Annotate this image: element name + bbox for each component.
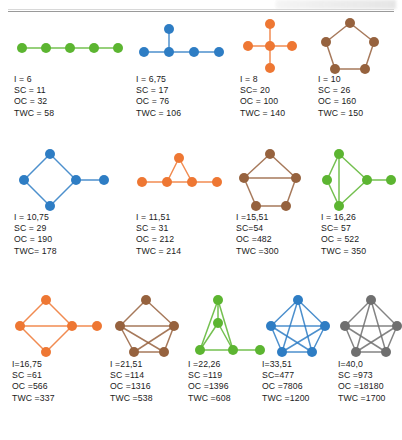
triangle-stack-path-graph: [188, 295, 268, 358]
graph-edge: [24, 180, 50, 206]
metric-twc: TWC =337: [12, 393, 55, 404]
graph-diagram: [12, 295, 112, 360]
metric-oc: OC = 32: [14, 96, 54, 107]
graph-node: [266, 321, 276, 331]
graph-edge: [50, 154, 76, 180]
graph-node: [139, 47, 149, 57]
graph-node: [362, 175, 372, 185]
graph-cell: I=16,75SC =61OC =566TWC =337: [12, 295, 112, 360]
graph-nodes: [239, 149, 301, 211]
metric-i: I = 10,75: [14, 212, 57, 223]
metrics-block: I = 6SC = 11OC = 32TWC = 58: [14, 74, 54, 119]
graph-diagram: [236, 148, 321, 214]
metrics-block: I =22,26SC =119OC =1396TWC =608: [188, 359, 231, 404]
graph-node: [351, 347, 361, 357]
graph-node: [45, 149, 55, 159]
graph-node: [322, 175, 332, 185]
metric-i: I = 6,75: [136, 74, 181, 85]
graph-node: [169, 321, 179, 331]
metric-i: I = 8: [240, 74, 285, 85]
metric-sc: SC=54: [236, 223, 279, 234]
diamond-chord-pendant-graph: [321, 148, 399, 214]
graph-edge: [24, 154, 50, 180]
graph-node: [189, 47, 199, 57]
metric-twc: TWC = 350: [321, 246, 366, 257]
graph-node: [164, 47, 174, 57]
graph-nodes: [195, 295, 265, 355]
metric-i: I = 10: [318, 74, 363, 85]
metric-twc: TWC = 150: [318, 108, 363, 119]
metric-i: I=33,51: [262, 359, 310, 370]
star-graph-5: [240, 18, 300, 76]
graph-node: [381, 347, 391, 357]
graph-node: [141, 295, 151, 305]
metrics-block: I=40,0SC =973OC =18180TWC =1700: [338, 359, 386, 404]
metric-twc: TWC =1700: [338, 393, 386, 404]
graph-edges: [120, 300, 174, 352]
metric-i: I = 16,26: [321, 212, 366, 223]
metric-i: I =22,26: [188, 359, 231, 370]
graph-node: [293, 295, 303, 305]
graph-cell: I = 10,75SC = 29OC = 190TWC= 178: [14, 148, 134, 214]
tree-graph-5: [136, 18, 227, 60]
graph-node: [320, 321, 330, 331]
graph-node: [99, 175, 109, 185]
graph-diagram: [136, 148, 236, 190]
graph-edge: [120, 300, 146, 326]
graph-node: [164, 24, 174, 34]
graph-diagram: [136, 18, 236, 60]
graph-diagram: [321, 148, 401, 214]
graph-edges: [327, 154, 391, 206]
graph-edges: [345, 300, 397, 352]
graph-edge: [46, 300, 72, 326]
graph-node: [195, 345, 205, 355]
metric-oc: OC =1396: [188, 381, 231, 392]
graph-node: [265, 19, 275, 29]
metric-oc: OC =7806: [262, 381, 310, 392]
metrics-block: I=33,51SC=477OC =7806TWC =1200: [262, 359, 310, 404]
graph-cell: I = 16,26SC= 57OC = 522TWC = 350: [321, 148, 401, 214]
metrics-block: I =21,51SC =114OC =1316TWC =538: [110, 359, 153, 404]
graph-node: [340, 321, 350, 331]
metric-oc: OC = 160: [318, 96, 363, 107]
path-graph-5: [14, 18, 126, 56]
graph-node: [214, 47, 224, 57]
metric-i: I=40,0: [338, 359, 386, 370]
scan-artifact: [276, 0, 396, 9]
top-rule: [8, 11, 394, 12]
graph-edges: [20, 300, 97, 352]
graph-cell: I =15,51SC=54OC =482TWC =300: [236, 148, 321, 214]
diamond-chord-pendant-graph-orange: [12, 295, 105, 360]
metric-twc: TWC = 58: [14, 108, 54, 119]
metric-sc: SC =119: [188, 370, 231, 381]
graph-node: [213, 295, 223, 305]
graph-nodes: [321, 18, 379, 74]
graph-edge: [270, 154, 296, 178]
metrics-block: I = 10,75SC = 29OC = 190TWC= 178: [14, 212, 57, 257]
graph-node: [243, 41, 253, 51]
metric-oc: OC = 76: [136, 96, 181, 107]
metric-sc: SC = 11: [14, 85, 54, 96]
metric-sc: SC= 20: [240, 85, 285, 96]
graph-edge: [20, 300, 46, 326]
graph-node: [41, 347, 51, 357]
graph-node: [67, 321, 77, 331]
graph-node: [174, 153, 184, 163]
graph-node: [19, 175, 29, 185]
graph-node: [159, 347, 169, 357]
graph-edge: [244, 154, 270, 178]
graph-node: [113, 43, 123, 53]
graph-node: [228, 345, 238, 355]
metric-twc: TWC =538: [110, 393, 153, 404]
graph-diagram: [240, 18, 320, 76]
graph-node: [17, 43, 27, 53]
metrics-block: I =15,51SC=54OC =482TWC =300: [236, 212, 279, 257]
graph-node: [277, 347, 287, 357]
graph-node: [334, 201, 344, 211]
graph-node: [92, 321, 102, 331]
metric-i: I=16,75: [12, 359, 55, 370]
graph-node: [334, 149, 344, 159]
graph-node: [239, 173, 249, 183]
graph-node: [212, 177, 222, 187]
graph-diagram: [14, 18, 134, 56]
